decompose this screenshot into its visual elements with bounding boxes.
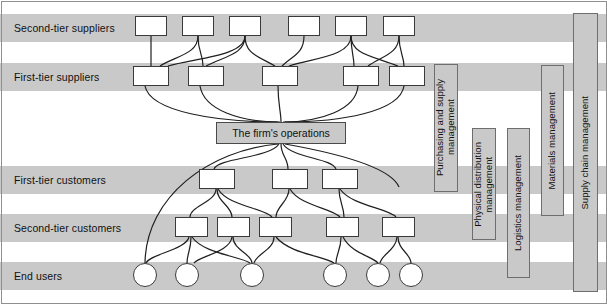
flow-line-24 xyxy=(217,189,232,217)
flow-line-16 xyxy=(283,86,358,122)
scope-bar-supply-chain-management: Supply chain management xyxy=(573,13,598,292)
scope-bar-label-purchasing-and-supply-management: Purchasing and supply management xyxy=(435,79,456,176)
tier-label-first-tier-customers: First-tier customers xyxy=(14,175,106,186)
scope-bar-label-materials-management: Materials management xyxy=(547,92,558,190)
node-first-tier-customers-3 xyxy=(322,169,358,189)
node-first-tier-suppliers-1 xyxy=(133,66,169,86)
node-end-users-2 xyxy=(175,263,199,287)
flow-line-33 xyxy=(194,237,232,263)
flow-line-38 xyxy=(343,237,378,263)
node-second-tier-customers-3 xyxy=(259,217,292,237)
node-first-tier-suppliers-4 xyxy=(343,66,379,86)
flow-line-23 xyxy=(190,189,216,217)
flow-line-8 xyxy=(289,36,351,66)
supply-chain-diagram: Second-tier suppliersFirst-tier supplier… xyxy=(0,0,607,304)
flow-line-15 xyxy=(278,86,281,122)
node-first-tier-suppliers-5 xyxy=(389,66,425,86)
scope-bar-label-physical-distribution-management: Physical distribution management xyxy=(473,142,494,227)
flow-line-2 xyxy=(160,36,198,66)
flow-line-14 xyxy=(200,86,280,122)
node-end-users-6 xyxy=(399,263,423,287)
firm-operations-box: The firm's operations xyxy=(216,122,346,144)
flow-line-35 xyxy=(254,237,274,263)
flow-line-36 xyxy=(276,237,334,263)
node-second-tier-suppliers-3 xyxy=(229,16,261,36)
scope-bar-label-supply-chain-management: Supply chain management xyxy=(580,96,591,210)
flow-line-18 xyxy=(145,144,278,263)
flow-line-6 xyxy=(198,36,203,66)
node-second-tier-customers-1 xyxy=(175,217,208,237)
flow-line-34 xyxy=(233,237,252,263)
node-second-tier-suppliers-5 xyxy=(335,16,367,36)
node-end-users-4 xyxy=(323,263,347,287)
flow-line-29 xyxy=(340,189,396,217)
node-second-tier-suppliers-1 xyxy=(135,16,167,36)
flow-line-4 xyxy=(206,36,245,66)
flow-line-40 xyxy=(398,237,411,263)
node-end-users-1 xyxy=(133,263,157,287)
node-first-tier-suppliers-2 xyxy=(188,66,224,86)
flow-line-39 xyxy=(380,237,397,263)
flow-line-26 xyxy=(276,189,289,217)
node-second-tier-suppliers-4 xyxy=(288,16,320,36)
scope-bar-materials-management: Materials management xyxy=(541,65,564,216)
flow-line-3 xyxy=(168,36,245,66)
flow-line-17 xyxy=(285,86,404,122)
node-first-tier-suppliers-3 xyxy=(262,66,298,86)
node-first-tier-customers-1 xyxy=(199,169,235,189)
flow-line-30 xyxy=(146,237,189,263)
flow-line-11 xyxy=(399,36,404,66)
flow-line-5 xyxy=(245,36,275,66)
scope-bar-logistics-management: Logistics management xyxy=(507,128,530,278)
node-end-users-5 xyxy=(366,263,390,287)
node-second-tier-customers-5 xyxy=(382,217,415,237)
scope-bar-purchasing-and-supply-management: Purchasing and supply management xyxy=(434,64,458,192)
flow-line-27 xyxy=(290,189,340,217)
flow-line-7 xyxy=(282,36,304,66)
flow-line-37 xyxy=(336,237,341,263)
flow-line-21 xyxy=(283,144,336,169)
tier-label-first-tier-suppliers: First-tier suppliers xyxy=(14,72,99,83)
scope-bar-physical-distribution-management: Physical distribution management xyxy=(472,128,496,240)
scope-bar-label-logistics-management: Logistics management xyxy=(513,155,524,251)
node-second-tier-suppliers-2 xyxy=(182,16,214,36)
flow-line-19 xyxy=(214,144,279,169)
tier-label-second-tier-suppliers: Second-tier suppliers xyxy=(14,23,115,34)
node-second-tier-suppliers-6 xyxy=(383,16,415,36)
tier-label-end-users: End users xyxy=(14,271,62,282)
flow-line-25 xyxy=(218,189,272,217)
node-end-users-3 xyxy=(240,263,264,287)
node-first-tier-customers-2 xyxy=(272,169,308,189)
tier-label-second-tier-customers: Second-tier customers xyxy=(14,223,121,234)
node-second-tier-customers-4 xyxy=(326,217,359,237)
node-second-tier-customers-2 xyxy=(217,217,250,237)
